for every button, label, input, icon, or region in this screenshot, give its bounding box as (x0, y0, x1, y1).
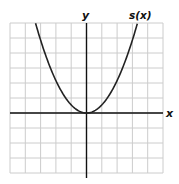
x-axis-label: x (165, 107, 174, 120)
curve-label: s(x) (129, 9, 152, 21)
parabola-graph: y x s(x) (0, 0, 179, 184)
y-axis-label: y (82, 9, 90, 22)
